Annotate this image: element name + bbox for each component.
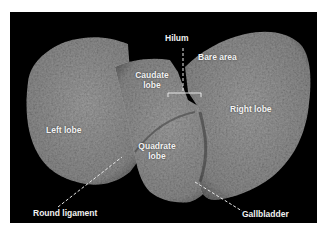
label-right-lobe: Right lobe: [230, 104, 272, 114]
label-quadrate-lobe: Quadrate lobe: [136, 141, 178, 161]
label-hilum: Hilum: [165, 33, 189, 43]
liver-photo: Hilum Bare area Caudate lobe Left lobe R…: [10, 12, 317, 223]
label-round-ligament: Round ligament: [33, 208, 97, 218]
label-gallbladder: Gallbladder: [242, 209, 289, 219]
label-caudate-lobe: Caudate lobe: [132, 70, 172, 90]
label-left-lobe: Left lobe: [46, 125, 81, 135]
label-bare-area: Bare area: [198, 52, 237, 62]
liver-silhouette: [10, 12, 317, 223]
